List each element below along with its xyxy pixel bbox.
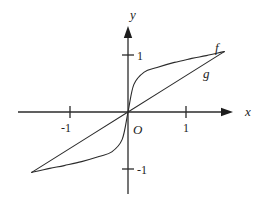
plot-canvas: y x O -1 1 1 -1 f g: [0, 0, 259, 206]
x-tick-label-neg1: -1: [61, 121, 71, 135]
origin-label: O: [133, 122, 143, 137]
curve-g-label: g: [203, 66, 210, 81]
x-tick-label-pos1: 1: [183, 121, 189, 135]
x-axis-label: x: [244, 104, 251, 119]
y-axis-label: y: [128, 7, 136, 22]
y-tick-label-pos1: 1: [137, 49, 143, 63]
function-graph-figure: y x O -1 1 1 -1 f g: [0, 0, 259, 206]
y-axis-arrowhead-icon: [124, 26, 132, 38]
y-tick-label-neg1: -1: [137, 163, 147, 177]
x-axis-arrowhead-icon: [221, 108, 233, 116]
